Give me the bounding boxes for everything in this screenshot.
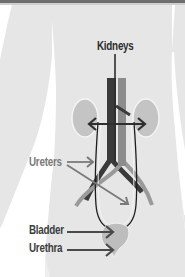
left-kidney — [72, 99, 98, 137]
urinary-system-diagram: Kidneys Ureters Bladder Urethra — [0, 0, 185, 277]
urethra-label: Urethra — [29, 242, 62, 254]
kidneys-label: Kidneys — [97, 40, 134, 52]
vena-cava — [118, 78, 126, 166]
body-silhouette — [0, 5, 185, 277]
ureters-label: Ureters — [29, 156, 62, 168]
bladder-label: Bladder — [29, 224, 64, 236]
right-kidney — [133, 99, 159, 137]
top-border-strip — [0, 0, 185, 3]
anatomy-illustration — [0, 0, 185, 277]
